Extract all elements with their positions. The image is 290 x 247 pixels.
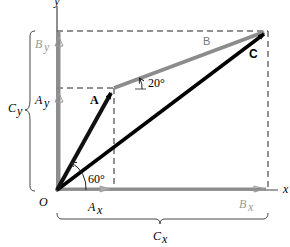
- svg-text:x: x: [96, 203, 103, 217]
- x-components: [57, 186, 266, 192]
- angle-20-arc: [140, 79, 142, 89]
- svg-text:x: x: [161, 232, 168, 246]
- vector-diagram: y x 60° 20° A B C O B y A y C: [0, 0, 290, 247]
- label-bx: B x: [239, 197, 254, 214]
- label-c: C: [249, 47, 258, 61]
- angle-60-label: 60°: [88, 172, 105, 186]
- svg-text:B: B: [239, 197, 247, 211]
- x-axis-label: x: [282, 182, 289, 196]
- label-b: B: [203, 35, 210, 47]
- svg-text:y: y: [16, 104, 23, 118]
- label-a: A: [90, 93, 99, 107]
- label-ay: A y: [34, 93, 50, 110]
- angle-20-label: 20°: [148, 76, 165, 90]
- brace-cx: [57, 213, 268, 224]
- svg-text:x: x: [247, 200, 254, 214]
- vector-b: [114, 32, 264, 88]
- svg-text:y: y: [43, 40, 50, 54]
- svg-text:A: A: [34, 93, 43, 107]
- origin-label: O: [39, 195, 48, 209]
- label-by: B y: [35, 37, 50, 54]
- svg-text:C: C: [153, 229, 162, 243]
- ax-arrow-icon: [100, 186, 110, 192]
- label-ax: A x: [87, 200, 103, 217]
- svg-text:y: y: [43, 96, 50, 110]
- y-components: [55, 32, 63, 190]
- y-axis-label: y: [53, 0, 60, 8]
- svg-text:B: B: [35, 37, 43, 51]
- label-cy: C y: [8, 101, 23, 118]
- label-cx: C x: [153, 229, 168, 246]
- svg-text:C: C: [8, 101, 17, 115]
- svg-text:A: A: [87, 200, 96, 214]
- vector-c: [57, 34, 264, 190]
- brace-cy: [25, 31, 35, 191]
